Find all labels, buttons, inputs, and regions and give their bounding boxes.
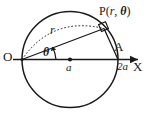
point-p-close-paren: ) [127,4,131,18]
point-a-label: A [114,40,123,53]
point-p-name: P [99,4,106,18]
diameter-label: 2a [117,61,128,72]
point-p-label: P(r, θ) [99,5,131,17]
origin-label: O [3,50,12,63]
origin-point-marker [20,58,23,61]
radius-vector-label: r [50,24,55,36]
radius-vector-line [22,29,104,60]
polar-circle-diagram: O A X 2a a r θ P(r, θ) [0,0,155,116]
figure-canvas [0,0,155,116]
x-axis-label: X [133,60,142,73]
angle-label: θ [43,46,49,58]
center-label: a [66,62,72,73]
